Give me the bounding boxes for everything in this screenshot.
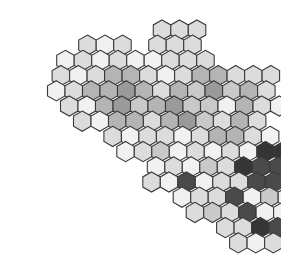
- hex-cell: [104, 126, 122, 146]
- hex-cell: [117, 142, 135, 162]
- hex-cell-diagram: [0, 0, 281, 266]
- hex-cell: [91, 111, 109, 131]
- hex-cell: [48, 81, 66, 101]
- hex-cell: [173, 187, 191, 207]
- hex-cell: [230, 233, 248, 253]
- hex-cell: [134, 142, 152, 162]
- hex-cell: [217, 218, 235, 238]
- hex-cell: [204, 202, 222, 222]
- hex-cell: [247, 233, 265, 253]
- hex-cell: [160, 172, 178, 192]
- hex-cell: [271, 96, 282, 116]
- hex-cell: [143, 172, 161, 192]
- hex-cell: [186, 202, 204, 222]
- hex-cell: [265, 233, 281, 253]
- hex-grid: [0, 0, 281, 266]
- hex-cell: [61, 96, 79, 116]
- hex-cell: [74, 111, 92, 131]
